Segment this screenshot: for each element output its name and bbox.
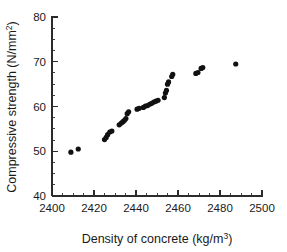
figure-container: 240024202440246024802500 4050607080 Dens… bbox=[0, 0, 287, 252]
data-point bbox=[170, 72, 175, 77]
data-point bbox=[76, 146, 81, 151]
data-point bbox=[200, 65, 205, 70]
data-point bbox=[123, 116, 128, 121]
x-tick-label: 2420 bbox=[81, 202, 107, 214]
scatter-chart: 240024202440246024802500 4050607080 Dens… bbox=[0, 0, 287, 252]
x-tick-labels: 240024202440246024802500 bbox=[39, 202, 275, 214]
y-tick-label: 80 bbox=[33, 11, 46, 23]
data-point bbox=[166, 79, 171, 84]
y-axis-title: Compressive strength (N/mm2) bbox=[4, 21, 19, 192]
x-axis-title: Density of concrete (kg/m3) bbox=[82, 231, 233, 246]
y-tick-label: 70 bbox=[33, 56, 46, 68]
data-points bbox=[68, 61, 238, 154]
data-point bbox=[126, 109, 131, 114]
data-point bbox=[155, 98, 160, 103]
y-tick-labels: 4050607080 bbox=[33, 11, 46, 202]
axes bbox=[52, 16, 263, 196]
data-point bbox=[162, 95, 167, 100]
x-tick-label: 2500 bbox=[249, 202, 275, 214]
data-point bbox=[233, 61, 238, 66]
data-point bbox=[68, 150, 73, 155]
data-point bbox=[109, 129, 114, 134]
x-tick-label: 2460 bbox=[165, 202, 191, 214]
x-tick-label: 2400 bbox=[39, 202, 65, 214]
data-point bbox=[164, 88, 169, 93]
axis-ticks bbox=[52, 17, 262, 196]
y-tick-label: 40 bbox=[33, 190, 46, 202]
x-tick-label: 2480 bbox=[207, 202, 233, 214]
y-tick-label: 60 bbox=[33, 101, 46, 113]
y-tick-label: 50 bbox=[33, 145, 46, 157]
x-tick-label: 2440 bbox=[123, 202, 149, 214]
